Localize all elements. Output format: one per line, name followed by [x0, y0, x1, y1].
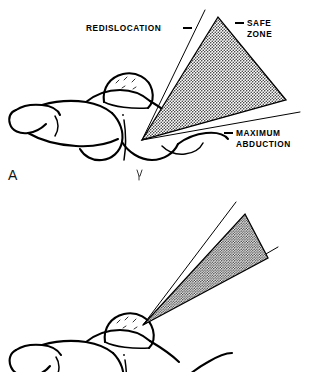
panel-label-a: A: [8, 168, 17, 182]
safe-zone-wedge-b: [143, 214, 268, 325]
infant-back-top-a: [86, 90, 150, 102]
infant-knee-crease-a: [55, 116, 58, 136]
gluteal-cleft-b: [125, 360, 127, 372]
infant-feet-a: [9, 110, 46, 133]
gluteal-cleft-a: [124, 120, 126, 160]
redislocation-label-a: REDISLOCATION: [86, 23, 161, 34]
infant-figure-b: [10, 313, 232, 372]
spine-dimple-a: [122, 114, 124, 116]
safe-zone-label-a-line2: ZONE: [247, 29, 272, 39]
infant-hair-a: [116, 77, 136, 89]
infant-foot-crease-a: [16, 105, 60, 115]
infant-thigh-right-b: [179, 353, 232, 372]
safe-zone-label-a: SAFE ZONE: [247, 18, 272, 39]
infant-head-base-a: [104, 102, 148, 108]
infant-leg-bottom-a: [28, 133, 118, 146]
spine-dimple-b: [123, 354, 125, 356]
infant-shoulder-b: [150, 341, 179, 362]
redislocation-leader-dash-a: [183, 27, 192, 29]
figure-root: A REDISLOCATION SAFE ZONE MAXIMUM ABDUCT…: [0, 0, 317, 372]
maximum-abduction-label-a-line2: ABDUCTION: [236, 139, 291, 149]
infant-feet-b: [10, 350, 50, 372]
maximum-abduction-label-a: MAXIMUM ABDUCTION: [236, 128, 291, 149]
infant-thigh-right-fold-a: [162, 143, 203, 154]
anatomy-mark-a: [137, 170, 142, 180]
safe-zone-label-a-line1: SAFE: [247, 18, 271, 28]
panel-b-drawing: [0, 190, 317, 372]
panel-a: A REDISLOCATION SAFE ZONE MAXIMUM ABDUCT…: [0, 0, 317, 190]
infant-buttock-left-b: [81, 353, 124, 372]
maximum-abduction-leader-dash-a: [224, 132, 233, 134]
infant-head-base-b: [105, 342, 149, 348]
infant-back-top-b: [86, 330, 150, 342]
infant-knee-crease-b: [56, 357, 59, 372]
infant-buttock-left-a: [80, 113, 123, 160]
infant-foot-crease-b: [16, 345, 61, 355]
panel-b: B REDISLOCATION SAFE ZONE MAXIMUM ABDUCT…: [0, 190, 317, 372]
safe-zone-leader-dash-a: [235, 22, 244, 24]
maximum-abduction-label-a-line1: MAXIMUM: [236, 128, 280, 138]
infant-hair-b: [117, 317, 137, 329]
